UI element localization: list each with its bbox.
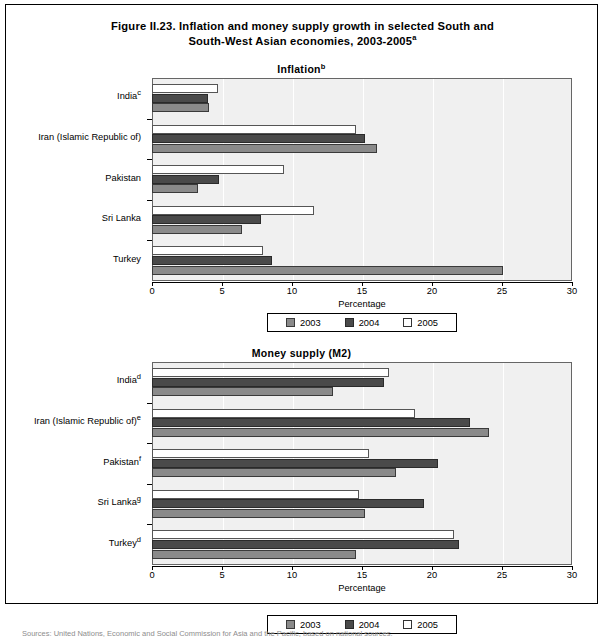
legend-item-2004: 2004 [345,318,380,328]
legend-swatch-2003 [286,620,295,629]
bar-2004 [152,459,438,468]
x-tick-label: 0 [137,286,167,296]
figure-title: Figure II.23. Inflation and money supply… [46,19,559,49]
legend-swatch-2005 [403,318,412,327]
figure-page: Figure II.23. Inflation and money supply… [0,0,603,641]
category-label: Iran (Islamic Republic of) [6,132,141,142]
x-tick-label: 25 [487,570,517,580]
category-label-superscript: e [137,413,141,422]
category-label: Pakistan [6,173,141,183]
x-tick-label: 0 [137,570,167,580]
category-label: Pakistanf [6,457,141,467]
bar-2004 [152,94,208,103]
y-tick [147,443,152,444]
figure-title-line1: Figure II.23. Inflation and money supply… [46,19,559,34]
legend-item-2004: 2004 [345,620,380,630]
gridline [573,79,574,280]
bar-2003 [152,428,489,437]
bar-2005 [152,409,415,418]
figure-title-superscript: a [412,33,416,42]
gridline [293,79,294,280]
panel-title-money-supply: Money supply (M2) [6,347,597,359]
y-tick [147,403,152,404]
y-tick [147,200,152,201]
bar-2003 [152,509,365,518]
bar-2003 [152,550,356,559]
y-tick [147,524,152,525]
bar-2005 [152,206,314,215]
category-label: Iran (Islamic Republic of)e [6,416,141,426]
legend-label: 2004 [359,620,380,630]
y-tick [147,240,152,241]
bar-2004 [152,418,470,427]
category-label-superscript: d [137,535,141,544]
bar-2003 [152,144,377,153]
gridline [363,79,364,280]
x-tick-label: 25 [487,286,517,296]
source-note: Sources: United Nations, Economic and So… [22,629,582,638]
bar-2004 [152,540,459,549]
bar-2004 [152,256,272,265]
bar-2005 [152,165,284,174]
bar-2003 [152,387,333,396]
category-label: Indiad [6,375,141,385]
figure-title-line2: South-West Asian economies, 2003-2005a [46,34,559,49]
gridline [573,363,574,564]
category-label-superscript: d [137,372,141,381]
legend-swatch-2003 [286,318,295,327]
bar-2005 [152,368,389,377]
bar-2005 [152,449,369,458]
legend-swatch-2004 [345,620,354,629]
y-tick [147,159,152,160]
legend-label: 2003 [300,318,321,328]
legend-label: 2005 [417,620,438,630]
bar-2003 [152,225,242,234]
legend-item-2005: 2005 [403,318,438,328]
legend-item-2003: 2003 [286,318,321,328]
bar-2004 [152,134,365,143]
x-tick-label: 15 [347,570,377,580]
x-axis-title-money-supply: Percentage [152,583,572,593]
bar-2004 [152,378,384,387]
y-tick [147,484,152,485]
gridline [503,363,504,564]
x-tick-label: 10 [277,570,307,580]
x-axis-title-inflation: Percentage [152,299,572,309]
bar-2005 [152,125,356,134]
legend-label: 2004 [359,318,380,328]
category-label: Sri Lanka [6,213,141,223]
legend-item-2003: 2003 [286,620,321,630]
bar-2005 [152,84,218,93]
bar-2003 [152,184,198,193]
panel1-title-superscript: b [321,62,326,71]
x-tick-label: 20 [417,286,447,296]
bar-2005 [152,246,263,255]
bar-2003 [152,468,396,477]
legend-swatch-2004 [345,318,354,327]
category-label-superscript: c [137,88,141,97]
bar-2005 [152,530,454,539]
gridline [433,79,434,280]
x-tick-label: 15 [347,286,377,296]
category-label: Sri Lankag [6,497,141,507]
bar-2004 [152,175,219,184]
legend-inflation: 200320042005 [267,313,457,332]
bar-2004 [152,499,424,508]
y-tick [147,119,152,120]
x-tick-label: 5 [207,286,237,296]
bar-2003 [152,103,209,112]
category-label-superscript: g [137,494,141,503]
bar-2004 [152,215,261,224]
category-label: Turkeyd [6,538,141,548]
legend-swatch-2005 [403,620,412,629]
category-label: Turkey [6,254,141,264]
x-tick-label: 30 [557,286,587,296]
legend-item-2005: 2005 [403,620,438,630]
x-tick-label: 20 [417,570,447,580]
figure-frame: Figure II.23. Inflation and money supply… [5,4,598,604]
panel-title-inflation: Inflationb [6,63,597,75]
x-tick-label: 10 [277,286,307,296]
bar-2003 [152,266,503,275]
bar-2005 [152,490,359,499]
legend-label: 2005 [417,318,438,328]
